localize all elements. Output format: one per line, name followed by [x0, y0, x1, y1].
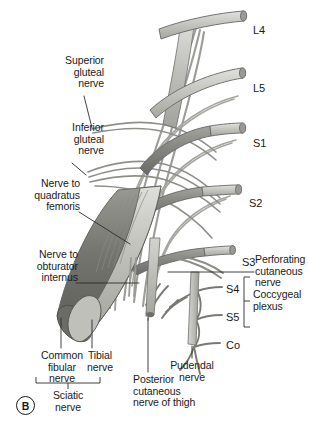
root-label-S3: S3	[242, 256, 255, 268]
pudendal-nerve-trunk	[188, 272, 199, 345]
label-superior-gluteal-nerve: Superior gluteal nerve	[18, 55, 104, 90]
label-sciatic-nerve: Sciatic nerve	[34, 390, 102, 413]
root-label-S1: S1	[253, 137, 266, 149]
sacral-plexus-figure: Superior gluteal nerve Inferior gluteal …	[0, 0, 309, 424]
bracket-coccygeal-plexus	[244, 277, 250, 327]
panel-letter-badge: B	[16, 396, 35, 415]
label-nerve-to-quadratus-femoris: Nerve to quadratus femoris	[8, 178, 80, 213]
root-label-Co: Co	[226, 339, 240, 351]
leader-inferior-gluteal	[72, 163, 86, 175]
posterior-cutaneous-nerve-of-thigh	[146, 238, 160, 317]
label-perforating-cutaneous-nerve: Perforating cutaneous nerve	[255, 254, 309, 289]
lumbosacral-trunk	[163, 22, 194, 128]
label-posterior-cutaneous-nerve-of-thigh: Posterior cutaneous nerve of thigh	[133, 374, 233, 409]
label-coccygeal-plexus: Coccygeal plexus	[253, 289, 309, 312]
perforating-cutaneous-nerve-branch	[176, 256, 223, 278]
root-S5-fiber	[196, 315, 222, 320]
label-inferior-gluteal-nerve: Inferior gluteal nerve	[18, 122, 104, 157]
label-nerve-to-obturator-internus: Nerve to obturator internus	[4, 249, 78, 284]
root-label-S5: S5	[226, 311, 239, 323]
spinal-root-L5	[150, 68, 246, 118]
root-label-S2: S2	[249, 197, 262, 209]
root-Co-fiber	[194, 343, 220, 347]
root-label-S4: S4	[226, 283, 239, 295]
root-label-L4: L4	[253, 24, 265, 36]
root-S4-fiber	[197, 287, 222, 291]
root-label-L5: L5	[253, 82, 265, 94]
label-tibial-nerve: Tibial nerve	[74, 350, 126, 373]
